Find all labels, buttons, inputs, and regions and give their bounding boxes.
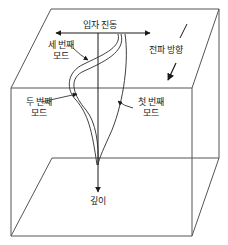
propagation-direction-label: 전파 방향 xyxy=(143,45,189,56)
first-mode-label-line1: 첫 번째 xyxy=(133,97,169,108)
wave-mode-diagram xyxy=(0,0,228,245)
bottom-left-edge xyxy=(11,158,52,236)
propagation-line xyxy=(180,24,187,38)
second-mode-label-line2: 모드 xyxy=(22,108,56,119)
third-mode-label-line1: 세 번째 xyxy=(44,40,78,51)
first-mode-label-line2: 모드 xyxy=(133,108,169,119)
depth-label: 깊이 xyxy=(84,196,112,207)
propagation-arrow xyxy=(168,63,176,80)
first-mode-curve xyxy=(98,34,126,165)
third-mode-label-line2: 모드 xyxy=(44,51,78,62)
particle-motion-label: 입자 진동 xyxy=(78,20,122,31)
bottom-right-edge xyxy=(192,158,219,236)
second-mode-label-line1: 두 번째 xyxy=(22,97,56,108)
